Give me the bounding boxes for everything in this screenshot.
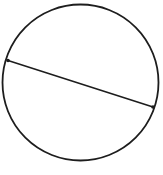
circle-outline [3, 5, 159, 161]
chord-endpoint-left-dot [6, 59, 10, 63]
geometry-diagram-svg [0, 0, 163, 175]
chord-endpoint-right-dot [151, 105, 155, 109]
geometry-figure-canvas [0, 0, 163, 175]
chord-line [8, 61, 153, 108]
